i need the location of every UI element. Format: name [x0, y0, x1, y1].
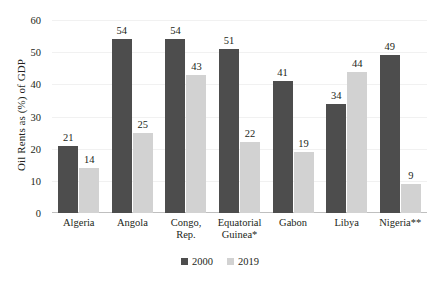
bar-group-congo: 54 43 — [159, 20, 213, 213]
y-tick-50: 50 — [31, 47, 42, 58]
bar-nigeria-2000[interactable]: 49 — [380, 55, 400, 213]
bar-algeria-2000[interactable]: 21 — [58, 146, 78, 214]
x-axis-tick-labels: Algeria Angola Congo, Rep. Equatorial Gu… — [52, 217, 427, 240]
bar-value-label: 19 — [298, 138, 309, 149]
legend-item-2019[interactable]: 2019 — [227, 256, 259, 267]
bar-value-label: 41 — [277, 67, 288, 78]
bar-angola-2000[interactable]: 54 — [112, 39, 132, 213]
bar-group-equatorial-guinea: 51 22 — [213, 20, 267, 213]
bar-value-label: 14 — [84, 154, 95, 165]
x-tick-nigeria: Nigeria** — [373, 217, 427, 240]
bar-value-label: 49 — [385, 41, 396, 52]
bar-algeria-2019[interactable]: 14 — [79, 168, 99, 213]
x-tick-libya: Libya — [320, 217, 374, 240]
legend: 2000 2019 — [0, 256, 440, 267]
legend-label-2000: 2000 — [192, 256, 213, 267]
bar-value-label: 54 — [117, 25, 128, 36]
plot-area: 21 14 54 25 — [52, 20, 427, 213]
bar-gabon-2019[interactable]: 19 — [294, 152, 314, 213]
bar-congo-2019[interactable]: 43 — [186, 75, 206, 213]
bar-nigeria-2019[interactable]: 9 — [401, 184, 421, 213]
legend-swatch-icon — [227, 258, 234, 265]
bar-congo-2000[interactable]: 54 — [165, 39, 185, 213]
y-tick-0: 0 — [36, 208, 41, 219]
y-tick-40: 40 — [31, 79, 42, 90]
y-tick-30: 30 — [31, 111, 42, 122]
bar-chart: Oil Rents as (%) of GDP 60 50 40 30 20 1… — [0, 0, 440, 282]
x-tick-gabon: Gabon — [266, 217, 320, 240]
bar-value-label: 43 — [191, 61, 202, 72]
bar-value-label: 9 — [408, 170, 413, 181]
bar-group-nigeria: 49 9 — [373, 20, 427, 213]
bar-value-label: 51 — [224, 35, 235, 46]
bar-value-label: 54 — [170, 25, 181, 36]
bar-libya-2019[interactable]: 44 — [347, 72, 367, 214]
x-tick-angola: Angola — [106, 217, 160, 240]
y-tick-10: 10 — [31, 175, 42, 186]
y-tick-20: 20 — [31, 143, 42, 154]
bar-group-algeria: 21 14 — [52, 20, 106, 213]
x-tick-algeria: Algeria — [52, 217, 106, 240]
legend-swatch-icon — [181, 258, 188, 265]
bar-value-label: 44 — [352, 58, 363, 69]
bar-value-label: 25 — [138, 119, 149, 130]
bar-angola-2019[interactable]: 25 — [133, 133, 153, 213]
x-tick-congo: Congo, Rep. — [159, 217, 213, 240]
y-tick-60: 60 — [31, 15, 42, 26]
bar-equatorial-guinea-2000[interactable]: 51 — [219, 49, 239, 213]
bar-group-angola: 54 25 — [106, 20, 160, 213]
bar-value-label: 22 — [245, 128, 256, 139]
x-tick-equatorial-guinea: Equatorial Guinea* — [213, 217, 267, 240]
bar-value-label: 21 — [63, 132, 74, 143]
legend-item-2000[interactable]: 2000 — [181, 256, 213, 267]
bar-value-label: 34 — [331, 90, 342, 101]
bar-gabon-2000[interactable]: 41 — [273, 81, 293, 213]
bar-equatorial-guinea-2019[interactable]: 22 — [240, 142, 260, 213]
y-axis-tick-labels: 60 50 40 30 20 10 0 — [0, 20, 46, 213]
bar-group-libya: 34 44 — [320, 20, 374, 213]
bar-groups: 21 14 54 25 — [52, 20, 427, 213]
legend-label-2019: 2019 — [238, 256, 259, 267]
bar-group-gabon: 41 19 — [266, 20, 320, 213]
bar-libya-2000[interactable]: 34 — [326, 104, 346, 213]
